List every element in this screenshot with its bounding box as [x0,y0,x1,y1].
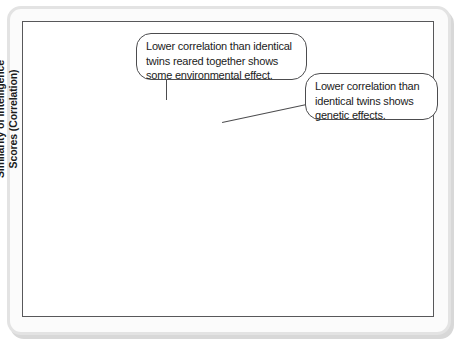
callout-2-line2: identical twins shows [315,94,428,109]
callout-2-line1: Lower correlation than [315,79,428,94]
y-axis-title-line1: Similarity of Intelligence [0,34,7,204]
callout-environmental-effect: Lower correlation than identical twins r… [136,33,307,80]
callout-1-line1: Lower correlation than identical [146,39,297,54]
callout-1-line2: twins reared together shows [146,54,297,69]
chart-screenshot: Similarity of Intelligence Scores (Corre… [0,0,464,346]
callout-2-line3: genetic effects. [315,108,428,123]
callout-1-line3: some environmental effect. [146,68,297,83]
callout-genetic-effects: Lower correlation than identical twins s… [305,73,438,120]
y-axis-title-line2: Scores (Correlation) [7,34,20,204]
